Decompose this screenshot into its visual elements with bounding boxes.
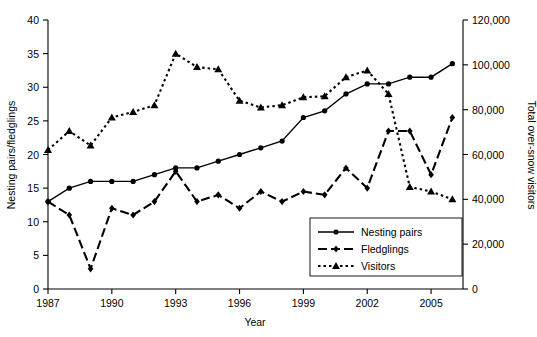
legend-item-label: Nesting pairs (361, 226, 422, 238)
data-point-marker (333, 229, 338, 234)
y-axis-left-tick-label: 25 (27, 115, 39, 127)
data-point-marker (428, 75, 433, 80)
y-axis-left-tick-label: 15 (27, 182, 39, 194)
y-axis-right: 020,00040,00060,00080,000100,000120,000 … (463, 14, 537, 295)
line-chart: 0510152025303540 Nesting pairs/fledgling… (0, 0, 537, 337)
y-axis-left-tick-label: 0 (33, 283, 39, 295)
data-point-marker (407, 75, 412, 80)
y-axis-left-tick-label: 20 (27, 149, 39, 161)
series-nesting-pairs (45, 61, 455, 204)
y-axis-left-tick-label: 5 (33, 249, 39, 261)
data-point-marker (129, 108, 137, 115)
data-point-marker (44, 146, 52, 153)
y-axis-left: 0510152025303540 Nesting pairs/fledgling… (5, 14, 48, 295)
data-point-marker (237, 152, 242, 157)
data-point-marker (65, 127, 73, 134)
x-axis-ticks: 1987199019931996199920022005 (36, 289, 443, 309)
data-point-marker (343, 91, 348, 96)
data-point-marker (386, 81, 391, 86)
chart-legend: Nesting pairsFledglingsVisitors (310, 218, 462, 276)
data-point-marker (406, 183, 414, 190)
y-axis-right-tick-label: 80,000 (472, 104, 504, 116)
y-axis-right-ticks: 020,00040,00060,00080,000100,000120,000 (463, 14, 510, 295)
data-point-marker (152, 172, 157, 177)
data-point-marker (279, 138, 284, 143)
y-axis-right-tick-label: 120,000 (472, 14, 510, 26)
data-point-marker (45, 198, 51, 205)
data-point-marker (448, 195, 456, 202)
data-point-marker (322, 191, 328, 198)
data-point-marker (279, 198, 285, 205)
data-point-marker (150, 101, 158, 108)
y-axis-left-title: Nesting pairs/fledglings (5, 101, 17, 210)
data-point-marker (301, 115, 306, 120)
data-point-marker (172, 50, 180, 57)
data-point-marker (365, 81, 370, 86)
y-axis-left-ticks: 0510152025303540 (27, 14, 48, 295)
y-axis-left-tick-label: 40 (27, 14, 39, 26)
x-axis-tick-label: 1990 (100, 297, 124, 309)
y-axis-left-tick-label: 10 (27, 216, 39, 228)
data-point-marker (363, 66, 371, 73)
series-line-0 (48, 64, 452, 202)
y-axis-right-tick-label: 40,000 (472, 193, 504, 205)
y-axis-right-title: Total over-snow visitors (526, 100, 537, 209)
data-point-marker (194, 165, 199, 170)
y-axis-right-tick-label: 100,000 (472, 59, 510, 71)
x-axis-tick-label: 1999 (292, 297, 316, 309)
chart-figure: 0510152025303540 Nesting pairs/fledgling… (0, 0, 537, 337)
x-axis-tick-label: 2005 (419, 297, 443, 309)
data-point-marker (427, 187, 435, 194)
data-point-marker (109, 179, 114, 184)
y-axis-right-tick-label: 60,000 (472, 149, 504, 161)
data-point-marker (450, 61, 455, 66)
series-line-2 (48, 54, 452, 200)
data-point-marker (131, 179, 136, 184)
data-point-marker (258, 145, 263, 150)
series-visitors (44, 50, 456, 203)
data-point-marker (215, 191, 221, 198)
y-axis-left-tick-label: 35 (27, 48, 39, 60)
legend-item-label: Fledglings (361, 243, 409, 255)
x-axis-title: Year (244, 316, 266, 328)
data-point-marker (88, 179, 93, 184)
data-point-marker (322, 108, 327, 113)
data-point-marker (342, 73, 350, 80)
x-axis-tick-label: 1987 (36, 297, 60, 309)
y-axis-left-tick-label: 30 (27, 81, 39, 93)
y-axis-right-tick-label: 20,000 (472, 238, 504, 250)
legend-item-label: Visitors (361, 260, 395, 272)
x-axis-tick-label: 2002 (356, 297, 380, 309)
x-axis-tick-label: 1993 (164, 297, 188, 309)
data-point-marker (216, 159, 221, 164)
data-point-marker (301, 188, 307, 195)
y-axis-right-tick-label: 0 (472, 283, 478, 295)
data-point-marker (67, 186, 72, 191)
x-axis-tick-label: 1996 (228, 297, 252, 309)
x-axis: 1987199019931996199920022005 Year (36, 289, 463, 328)
data-point-marker (108, 114, 116, 121)
